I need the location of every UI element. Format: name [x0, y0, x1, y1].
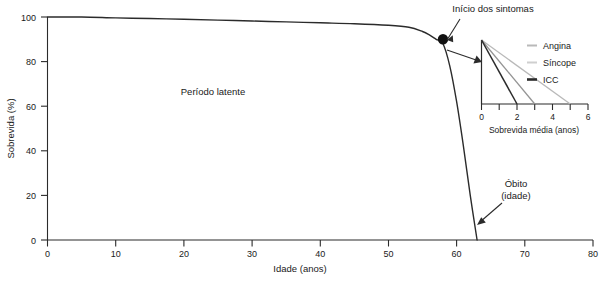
- inset-x-tick-label-2: 2: [515, 112, 520, 122]
- x-tick-label-40: 40: [315, 249, 325, 259]
- y-axis-title: Sobrevida (%): [5, 98, 16, 158]
- y-tick-label-40: 40: [26, 146, 36, 156]
- x-tick-label-70: 70: [520, 249, 530, 259]
- x-tick-label-80: 80: [588, 249, 598, 259]
- chart-background: [0, 0, 603, 281]
- legend-label-sincope: Síncope: [543, 58, 576, 68]
- y-tick-label-20: 20: [26, 191, 36, 201]
- x-tick-label-60: 60: [452, 249, 462, 259]
- y-tick-label-0: 0: [31, 236, 36, 246]
- latent-period-label: Período latente: [181, 86, 245, 97]
- x-tick-label-30: 30: [247, 249, 257, 259]
- legend-label-icc: ICC: [543, 75, 559, 85]
- x-tick-label-20: 20: [179, 249, 189, 259]
- inset-x-tick-label-6: 6: [586, 112, 591, 122]
- chart-canvas: 100 80 60 40 20 0 Sobrevida (%) 0 10 20 …: [0, 0, 603, 281]
- death-label-line2: (idade): [501, 190, 531, 201]
- x-tick-label-0: 0: [45, 249, 50, 259]
- survival-chart-figure: 100 80 60 40 20 0 Sobrevida (%) 0 10 20 …: [0, 0, 603, 281]
- x-axis-title: Idade (anos): [273, 263, 326, 274]
- death-label-line1: Óbito: [505, 178, 528, 189]
- y-tick-label-60: 60: [26, 102, 36, 112]
- y-tick-label-100: 100: [21, 13, 36, 23]
- inset-x-tick-label-4: 4: [550, 112, 555, 122]
- inset-x-tick-label-0: 0: [479, 112, 484, 122]
- x-tick-label-10: 10: [111, 249, 121, 259]
- inset-x-axis-title: Sobrevida média (anos): [489, 125, 579, 135]
- symptom-onset-label: Início dos sintomas: [452, 3, 534, 14]
- legend-label-angina: Angina: [543, 41, 571, 51]
- symptom-onset-marker: [438, 34, 448, 44]
- x-tick-label-50: 50: [383, 249, 393, 259]
- y-tick-label-80: 80: [26, 57, 36, 67]
